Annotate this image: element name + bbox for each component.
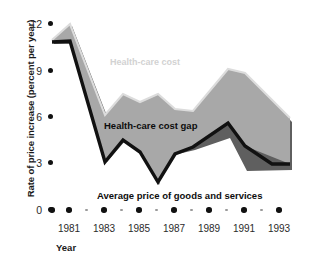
x-axis-dot-1987 <box>171 207 177 213</box>
y-tick-dot-9 <box>48 68 53 73</box>
x-tick-label-1985: 1985 <box>122 224 156 234</box>
y-tick-dot-3 <box>48 160 53 165</box>
y-tick-label-9: 9 <box>26 66 42 76</box>
x-axis-dot-1988 <box>190 209 193 212</box>
x-tick-label-1983: 1983 <box>87 224 121 234</box>
y-tick-label-6: 6 <box>26 112 42 122</box>
x-axis-dot-1986 <box>155 209 158 212</box>
series-label-health-care-cost-gap: Health-care cost gap <box>104 120 197 131</box>
x-axis-dot-1982 <box>85 209 88 212</box>
y-tick-label-0: 0 <box>26 205 42 215</box>
x-tick-label-1981: 1981 <box>52 224 86 234</box>
series-label-average-price: Average price of goods and services <box>97 190 262 201</box>
x-axis-title: Year <box>56 242 76 253</box>
x-axis-dot-1992 <box>260 209 263 212</box>
y-axis-title: Rate of price increase (percent per year… <box>25 4 36 214</box>
x-axis-dot-1991 <box>241 207 247 213</box>
series-label-health-care-cost: Health-care cost <box>110 57 180 67</box>
x-axis-dot-1984 <box>120 209 123 212</box>
x-axis-dot-1983 <box>101 207 107 213</box>
y-tick-label-3: 3 <box>26 158 42 168</box>
y-tick-dot-6 <box>48 114 53 119</box>
x-axis-dot-1993 <box>276 207 282 213</box>
y-tick-dot-12 <box>48 21 53 26</box>
chart-figure: Rate of price increase (percent per year… <box>0 0 315 264</box>
y-tick-label-12: 12 <box>26 19 42 29</box>
x-axis-dot-1989 <box>206 207 212 213</box>
x-axis-dot-1980 <box>49 207 55 213</box>
x-tick-label-1991: 1991 <box>227 224 261 234</box>
x-axis-dot-1985 <box>136 207 142 213</box>
x-axis-dot-1981 <box>66 207 72 213</box>
x-tick-label-1993: 1993 <box>262 224 296 234</box>
x-tick-label-1989: 1989 <box>192 224 226 234</box>
x-tick-label-1987: 1987 <box>157 224 191 234</box>
x-axis-dot-1990 <box>225 209 228 212</box>
